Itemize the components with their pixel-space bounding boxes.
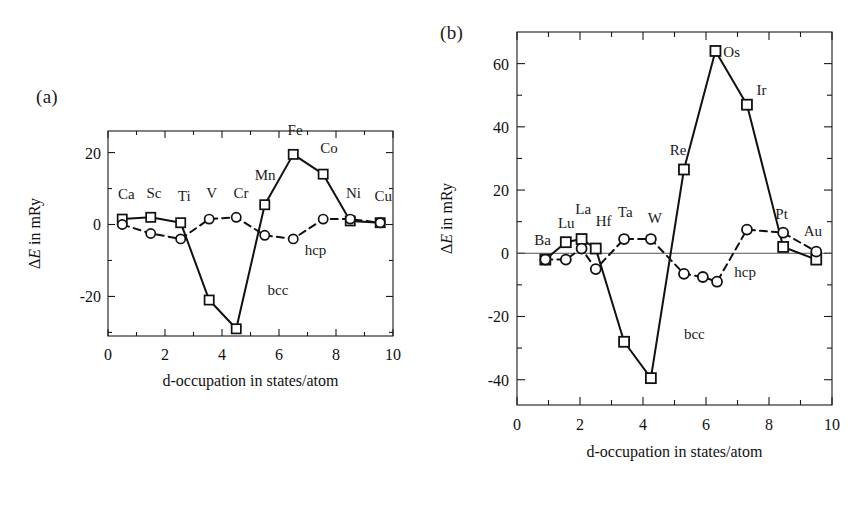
- point-label-Re: Re: [670, 142, 687, 158]
- point-label-Ca: Ca: [118, 186, 135, 202]
- marker-circle: [811, 247, 821, 257]
- y-tick-label: 0: [501, 245, 509, 262]
- marker-circle: [577, 244, 587, 254]
- svg-text:ΔE in mRy: ΔE in mRy: [438, 183, 456, 254]
- marker-circle: [712, 277, 722, 287]
- point-label-V: V: [206, 185, 217, 201]
- marker-square: [591, 244, 601, 254]
- x-tick-label: 6: [702, 416, 710, 433]
- point-label-W: W: [648, 210, 663, 226]
- x-tick-label: 2: [161, 346, 169, 363]
- marker-circle: [742, 225, 752, 235]
- x-tick-label: 10: [385, 346, 401, 363]
- marker-square: [619, 337, 629, 347]
- point-label-Os: Os: [723, 44, 740, 60]
- x-axis-title: d-occupation in states/atom: [587, 443, 764, 461]
- marker-square: [260, 200, 269, 209]
- marker-square: [778, 242, 788, 252]
- point-label-Ir: Ir: [756, 82, 766, 98]
- y-tick-label: 20: [85, 145, 101, 162]
- marker-circle: [679, 269, 689, 279]
- marker-circle: [646, 234, 656, 244]
- marker-circle: [260, 231, 269, 240]
- panel-b: (b) 0246810-40-200204060BaLuLaHfTaWReOsI…: [430, 0, 867, 516]
- marker-square: [176, 218, 185, 227]
- marker-circle: [376, 218, 385, 227]
- x-axis-title: d-occupation in states/atom: [163, 372, 340, 390]
- y-axis-title: ΔE in mRy: [438, 183, 456, 254]
- marker-circle: [205, 215, 214, 224]
- series-line-hcp: [122, 217, 380, 239]
- y-tick-label: 0: [93, 216, 101, 233]
- x-tick-label: 4: [639, 416, 647, 433]
- marker-circle: [619, 234, 629, 244]
- point-label-Mn: Mn: [255, 167, 276, 183]
- point-label-Lu: Lu: [558, 215, 575, 231]
- point-label-Cr: Cr: [233, 185, 248, 201]
- marker-square: [232, 324, 241, 333]
- point-label-Co: Co: [320, 140, 338, 156]
- y-tick-label: 20: [493, 182, 509, 199]
- marker-circle: [232, 213, 241, 222]
- marker-circle: [698, 272, 708, 282]
- point-label-Cu: Cu: [374, 188, 392, 204]
- point-label-Pt: Pt: [775, 206, 788, 222]
- series-label-bcc: bcc: [684, 326, 705, 342]
- y-tick-label: -40: [488, 372, 509, 389]
- x-tick-label: 8: [765, 416, 773, 433]
- panel-a: (a) 0246810-20020CaScTiVCrMnFeCoNiCubcch…: [0, 0, 430, 516]
- marker-square: [205, 295, 214, 304]
- point-label-Ni: Ni: [346, 185, 361, 201]
- y-tick-label: 60: [493, 56, 509, 73]
- panel-a-plot: 0246810-20020CaScTiVCrMnFeCoNiCubcchcpd-…: [0, 0, 430, 516]
- marker-circle: [540, 255, 550, 265]
- point-label-Ba: Ba: [534, 232, 551, 248]
- x-tick-label: 0: [104, 346, 112, 363]
- x-tick-label: 6: [275, 346, 283, 363]
- point-label-Ti: Ti: [178, 188, 191, 204]
- x-tick-label: 10: [824, 416, 840, 433]
- marker-square: [146, 213, 155, 222]
- marker-square: [577, 234, 587, 244]
- marker-circle: [346, 215, 355, 224]
- marker-circle: [778, 228, 788, 238]
- marker-square: [710, 46, 720, 56]
- marker-square: [319, 170, 328, 179]
- x-tick-label: 4: [218, 346, 226, 363]
- y-tick-label: -20: [80, 288, 101, 305]
- marker-square: [742, 100, 752, 110]
- marker-square: [289, 150, 298, 159]
- point-label-Sc: Sc: [146, 185, 161, 201]
- y-tick-label: -20: [488, 308, 509, 325]
- series-label-hcp: hcp: [734, 264, 756, 280]
- marker-square: [561, 237, 571, 247]
- marker-circle: [118, 220, 127, 229]
- point-label-Au: Au: [804, 223, 823, 239]
- series-label-hcp: hcp: [305, 242, 327, 258]
- point-label-La: La: [575, 201, 591, 217]
- point-label-Ta: Ta: [618, 204, 633, 220]
- marker-circle: [289, 234, 298, 243]
- point-label-Hf: Hf: [596, 213, 612, 229]
- marker-circle: [176, 234, 185, 243]
- marker-circle: [561, 255, 571, 265]
- marker-square: [679, 165, 689, 175]
- marker-circle: [146, 229, 155, 238]
- panel-b-plot: 0246810-40-200204060BaLuLaHfTaWReOsIrPtA…: [430, 0, 867, 516]
- svg-text:ΔE in mRy: ΔE in mRy: [26, 198, 44, 269]
- y-tick-label: 40: [493, 119, 509, 136]
- point-label-Fe: Fe: [288, 122, 303, 138]
- y-axis-title: ΔE in mRy: [26, 198, 44, 269]
- series-label-bcc: bcc: [268, 282, 289, 298]
- x-tick-label: 8: [332, 346, 340, 363]
- marker-circle: [591, 264, 601, 274]
- marker-circle: [319, 215, 328, 224]
- marker-square: [646, 373, 656, 383]
- series-line-bcc: [122, 154, 380, 328]
- x-tick-label: 0: [513, 416, 521, 433]
- x-tick-label: 2: [576, 416, 584, 433]
